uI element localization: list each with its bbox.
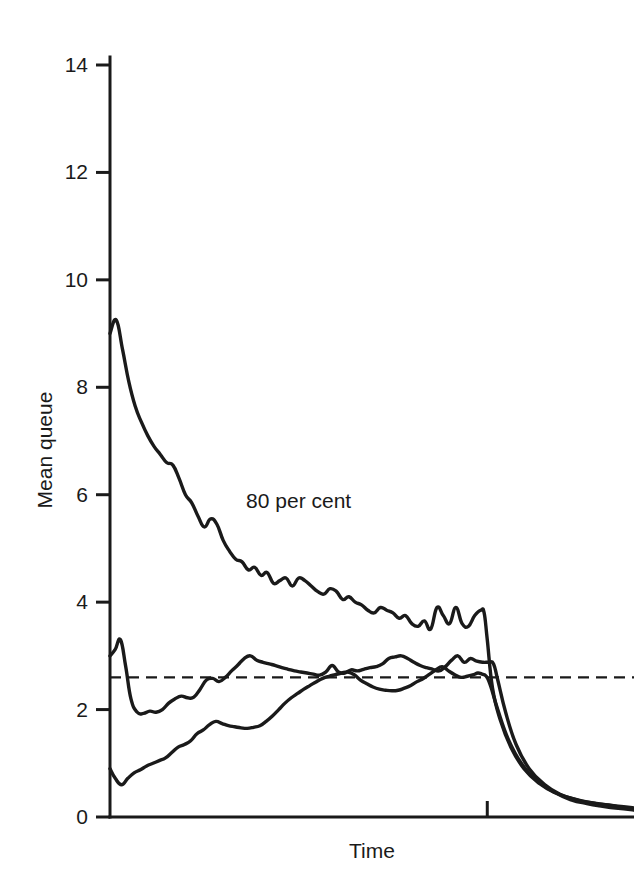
y-tick-label-10: 10 bbox=[65, 268, 88, 291]
chart-figure: 02468101214 80 per cent Time Mean queue bbox=[0, 0, 634, 881]
y-tick-label-group: 02468101214 bbox=[65, 53, 89, 828]
y-tick-label-0: 0 bbox=[76, 805, 88, 828]
y-tick-label-8: 8 bbox=[76, 375, 88, 398]
series-line-upper bbox=[110, 320, 634, 808]
y-tick-label-14: 14 bbox=[65, 53, 89, 76]
y-tick-group bbox=[96, 65, 110, 817]
y-tick-label-12: 12 bbox=[65, 160, 88, 183]
y-tick-label-6: 6 bbox=[76, 483, 88, 506]
series-line-middle bbox=[110, 639, 634, 810]
y-tick-label-2: 2 bbox=[76, 698, 88, 721]
y-axis-title: Mean queue bbox=[33, 392, 56, 509]
annotation-label-0: 80 per cent bbox=[246, 489, 351, 512]
series-line-lower bbox=[110, 667, 634, 810]
annotation-group: 80 per cent bbox=[246, 489, 351, 512]
y-tick-label-4: 4 bbox=[76, 590, 88, 613]
series-group bbox=[110, 320, 634, 810]
x-axis-title: Time bbox=[349, 839, 395, 862]
chart-plot-area: 02468101214 80 per cent Time Mean queue bbox=[0, 0, 634, 881]
